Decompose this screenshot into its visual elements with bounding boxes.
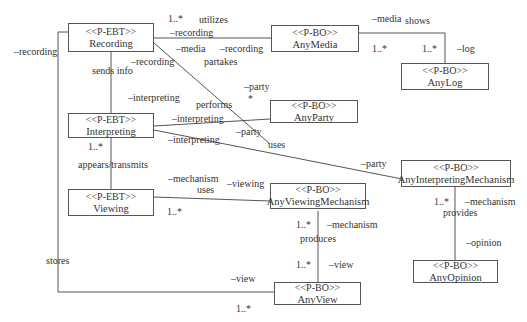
class-name: AnyViewingMechanism [267, 196, 370, 208]
multiplicity-label: 1..* [167, 206, 182, 217]
association-name: shows [405, 15, 430, 26]
class-viewing[interactable]: <<P-EBT>> Viewing [68, 189, 154, 216]
stereotype-label: <<P-BO>> [292, 27, 337, 39]
association-name: partakes [204, 56, 237, 67]
role-label: –party [244, 81, 270, 92]
role-label: –media [176, 43, 205, 54]
class-recording[interactable]: <<P-EBT>> Recording [68, 23, 154, 52]
role-label: –interpreting [168, 134, 220, 145]
association-name: stores [46, 255, 69, 266]
class-name: Viewing [93, 203, 129, 215]
association-name: uses [197, 184, 214, 195]
class-any-log[interactable]: <<P-BO>> AnyLog [401, 63, 489, 90]
role-label: –interpreting [128, 92, 180, 103]
stereotype-label: <<P-BO>> [422, 65, 467, 77]
multiplicity-label: 1..* [168, 13, 183, 24]
stereotype-label: <<P-BO>> [291, 100, 336, 112]
multiplicity-label: * [248, 93, 253, 104]
role-label: –recording [14, 46, 57, 57]
role-label: –recording [131, 56, 174, 67]
association-name: provides [443, 207, 477, 218]
class-name: Interpreting [86, 126, 136, 138]
class-name: AnyInterpretingMechanism [398, 174, 515, 186]
association-name: sends info [92, 65, 133, 76]
stereotype-label: <<P-BO>> [295, 282, 340, 294]
role-label: –interpreting [172, 113, 224, 124]
role-label: –opinion [466, 237, 502, 248]
class-any-view[interactable]: <<P-BO>> AnyView [274, 282, 361, 305]
multiplicity-label: 1..* [88, 141, 103, 152]
role-label: –party [361, 158, 387, 169]
class-any-party[interactable]: <<P-BO>> AnyParty [270, 100, 358, 123]
role-label: –mechanism [327, 219, 378, 230]
class-name: AnyView [297, 294, 337, 306]
association-name: performs [196, 99, 232, 110]
class-name: AnyParty [294, 112, 334, 124]
role-label: –mechanism [168, 173, 219, 184]
multiplicity-label: 1..* [296, 219, 311, 230]
stereotype-label: <<P-EBT>> [86, 114, 136, 126]
association-name: appears/transmits [78, 159, 148, 170]
role-label: –recording [170, 27, 213, 38]
stereotype-label: <<P-EBT>> [86, 191, 136, 203]
association-name: uses [268, 139, 285, 150]
class-name: AnyOpinion [429, 272, 482, 284]
stereotype-label: <<P-BO>> [433, 162, 478, 174]
multiplicity-label: 1..* [372, 43, 387, 54]
class-any-opinion[interactable]: <<P-BO>> AnyOpinion [413, 260, 498, 283]
multiplicity-label: 1..* [434, 196, 449, 207]
association-name: produces [300, 233, 336, 244]
role-label: –view [329, 259, 353, 270]
multiplicity-label: 1..* [236, 303, 251, 314]
class-any-media[interactable]: <<P-BO>> AnyMedia [271, 25, 359, 52]
stereotype-label: <<P-EBT>> [86, 26, 136, 38]
role-label: –view [231, 273, 255, 284]
class-name: Recording [89, 38, 133, 50]
class-any-viewing-mechanism[interactable]: <<P-BO>> AnyViewingMechanism [270, 183, 366, 209]
multiplicity-label: 1..* [296, 259, 311, 270]
class-name: AnyLog [428, 77, 463, 89]
multiplicity-label: 1..* [422, 43, 437, 54]
role-label: –recording [220, 43, 263, 54]
role-label: –media [372, 13, 401, 24]
class-interpreting[interactable]: <<P-EBT>> Interpreting [68, 113, 154, 138]
role-label: –mechanism [465, 196, 516, 207]
class-any-interpreting-mechanism[interactable]: <<P-BO>> AnyInterpretingMechanism [401, 160, 511, 187]
association-name: utilizes [199, 14, 228, 25]
class-name: AnyMedia [293, 39, 338, 51]
stereotype-label: <<P-BO>> [295, 184, 340, 196]
role-label: –log [457, 43, 475, 54]
role-label: –viewing [227, 178, 264, 189]
role-label: –party [236, 126, 262, 137]
stereotype-label: <<P-BO>> [433, 260, 478, 272]
